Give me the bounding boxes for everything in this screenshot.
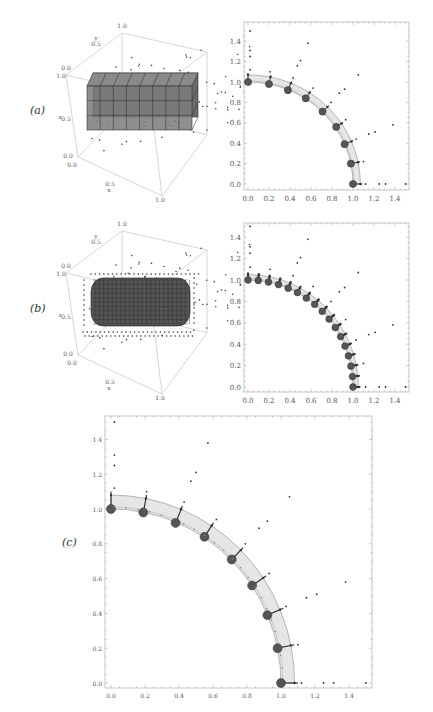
y-tick-label: 0.6: [92, 575, 102, 582]
sample-point: [127, 273, 129, 275]
sample-point: [330, 102, 332, 104]
y-tick-label: 0.6: [230, 119, 242, 127]
sample-point: [190, 57, 192, 59]
sample-point: [238, 109, 240, 111]
x-tick-label: 1.2: [368, 195, 379, 203]
sample-point: [190, 480, 192, 482]
axis-tick-label: 1.0: [56, 72, 66, 79]
sample-point: [103, 150, 105, 152]
sample-point: [344, 88, 346, 90]
sample-point: [185, 54, 187, 56]
sample-point: [206, 327, 208, 329]
sample-point: [186, 56, 188, 58]
sample-point: [195, 472, 197, 474]
sample-point: [345, 119, 347, 121]
x-tick-label: 0.6: [305, 195, 317, 203]
sample-point: [89, 308, 91, 310]
node-marker: [285, 285, 292, 292]
sample-point: [330, 301, 332, 303]
sample-point: [193, 131, 195, 133]
sample-point: [199, 299, 201, 301]
sample-point: [269, 71, 271, 73]
sample-point: [126, 141, 128, 143]
sample-point: [196, 283, 198, 285]
sample-point: [365, 682, 367, 684]
y-tick-label: 1.0: [230, 277, 241, 285]
sample-point: [292, 275, 294, 277]
x-tick-label: 0.2: [140, 692, 150, 699]
sample-point: [217, 291, 219, 293]
sample-point: [269, 268, 271, 270]
axis-tick-label: 0.0: [67, 161, 77, 168]
x-tick-label: 1.4: [344, 692, 354, 699]
sample-point: [138, 263, 140, 265]
y-tick-label: 1.2: [230, 255, 241, 263]
sample-point: [221, 91, 223, 93]
boundary-band: [248, 75, 360, 184]
node-marker: [311, 301, 318, 308]
sample-point: [139, 261, 141, 263]
sample-point: [213, 83, 215, 85]
x-tick-label: 0.4: [284, 397, 296, 405]
sample-point: [355, 339, 357, 341]
node-marker: [337, 333, 344, 340]
node-marker: [319, 108, 326, 115]
sample-point: [225, 76, 227, 78]
sample-point: [163, 266, 165, 268]
plot-a-3d: 1.00.50.01.00.50.00.00.51.0yxz: [56, 22, 250, 203]
node-marker: [294, 289, 301, 296]
sample-point: [227, 122, 229, 124]
sample-point: [323, 682, 325, 684]
y-tick-label: 0.2: [230, 160, 241, 168]
node-marker: [265, 80, 272, 87]
sample-point: [368, 334, 370, 336]
y-tick-label: 0.4: [230, 341, 242, 349]
sample-point: [139, 63, 141, 65]
sample-point: [187, 270, 189, 272]
sample-point: [312, 87, 314, 89]
y-tick-label: 1.0: [92, 506, 102, 513]
node-marker: [332, 324, 339, 331]
sample-point: [202, 106, 204, 108]
sample-point: [224, 290, 226, 292]
node-marker: [302, 95, 309, 102]
sample-point: [206, 105, 208, 107]
sample-point: [202, 304, 204, 306]
sample-point: [206, 303, 208, 305]
node-marker: [107, 505, 116, 514]
x-tick-label: 1.4: [389, 397, 401, 405]
sample-point: [200, 49, 202, 51]
y-tick-label: 0.8: [92, 540, 102, 547]
sample-point: [206, 81, 208, 83]
axis-tick-label: 1.0: [117, 22, 127, 29]
sample-point: [232, 294, 234, 296]
sample-point: [193, 329, 195, 331]
x-tick-label: 1.0: [276, 692, 286, 699]
sample-point: [368, 133, 370, 135]
node-marker: [245, 277, 252, 284]
sample-point: [392, 324, 394, 326]
y-tick-label: 0.0: [230, 384, 241, 392]
sample-point: [237, 54, 239, 56]
sample-point: [103, 348, 105, 350]
sample-point: [297, 644, 299, 646]
y-tick-label: 0.2: [92, 645, 102, 652]
sample-point: [206, 279, 208, 281]
sample-point: [374, 131, 376, 133]
sample-point: [301, 682, 303, 684]
sample-point: [121, 143, 123, 145]
node-marker: [303, 295, 310, 302]
sample-point: [296, 65, 298, 67]
sample-point: [217, 93, 219, 95]
node-marker: [349, 373, 356, 380]
sample-point: [345, 319, 347, 321]
x-tick-label: 0.8: [326, 195, 337, 203]
sample-point: [316, 593, 318, 595]
axis-label-x: x: [107, 384, 111, 391]
node-marker: [342, 343, 349, 350]
node-marker: [200, 532, 209, 541]
sample-point: [249, 30, 251, 32]
axis-label-z: z: [58, 311, 61, 318]
sample-point: [363, 161, 365, 163]
sample-point: [179, 70, 181, 72]
